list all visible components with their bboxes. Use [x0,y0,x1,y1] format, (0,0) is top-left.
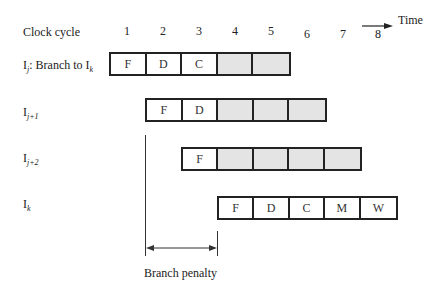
penalty-left-boundary-line [145,135,146,256]
penalty-right-boundary-line [217,231,218,256]
stage-empty [254,149,289,169]
pipeline-row-ik: F D C M W [217,196,398,220]
row-label-ij2: Ij+2 [23,151,39,165]
row-label-subscript-2: k [90,65,94,74]
pipeline-row-ij: F D C [109,52,291,76]
stage-fetch: F [183,149,218,169]
row-label-rest: : Branch to I [29,58,89,72]
stage-empty [289,149,324,169]
cycle-number-5: 5 [261,24,281,38]
time-arrow-icon [362,17,394,27]
pipeline-row-ij1: F D [145,98,327,122]
stage-compute: C [182,54,218,74]
cycle-number-1: 1 [117,24,137,38]
stage-memory: M [325,198,360,218]
row-label-ij: Ij: Branch to Ik [23,58,93,72]
time-label: Time [398,13,423,27]
row-label-ij1: Ij+1 [23,105,39,119]
row-label-subscript: j+2 [27,158,39,167]
stage-decode: D [183,100,219,120]
cycle-number-6: 6 [297,27,317,41]
stage-decode: D [254,198,289,218]
cycle-number-4: 4 [225,24,245,38]
stage-empty [254,100,290,120]
stage-decode: D [147,54,183,74]
pipeline-row-ij2: F [181,147,362,171]
row-label-subscript: k [27,204,31,213]
row-label-ik: Ik [23,197,31,211]
stage-empty [325,149,360,169]
row-label-subscript: j+1 [27,112,39,121]
clock-cycle-label: Clock cycle [23,25,80,39]
stage-empty [218,54,254,74]
double-arrow-icon [146,239,217,249]
cycle-number-2: 2 [153,24,173,38]
stage-empty [218,100,254,120]
stage-compute: C [290,198,325,218]
stage-fetch: F [219,198,254,218]
stage-write: W [361,198,396,218]
stage-empty [218,149,253,169]
stage-fetch: F [147,100,183,120]
stage-empty [253,54,289,74]
cycle-number-7: 7 [333,27,353,41]
stage-fetch: F [111,54,147,74]
cycle-number-3: 3 [189,24,209,38]
stage-empty [289,100,325,120]
branch-penalty-label: Branch penalty [144,266,217,280]
